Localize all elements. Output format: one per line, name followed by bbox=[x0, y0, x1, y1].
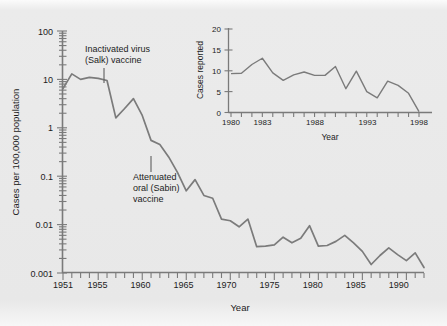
chart-canvas: 100 10 1 0.1 0.01 0.001 1951 1955 1960 1… bbox=[0, 0, 447, 326]
main-x-tick-label-2: 1960 bbox=[130, 280, 150, 290]
main-y-tick-label-0: 100 bbox=[38, 27, 53, 37]
main-series-line bbox=[63, 74, 424, 268]
inset-x-tick-label-4: 1998 bbox=[410, 118, 428, 127]
main-y-tick-label-3: 0.1 bbox=[40, 172, 53, 182]
main-x-tick-label-1: 1955 bbox=[87, 280, 107, 290]
inset-y-axis-title: Cases reported bbox=[195, 41, 205, 99]
main-y-tick-label-4: 0.01 bbox=[35, 220, 53, 230]
inset-y-tick-label-0: 20 bbox=[212, 25, 221, 34]
main-x-tick-label-7: 1985 bbox=[346, 280, 366, 290]
inset-x-ticks bbox=[231, 113, 419, 118]
main-x-axis-title: Year bbox=[230, 302, 249, 313]
annotation-sabin-line-2: vaccine bbox=[133, 194, 164, 204]
main-y-axis-title: Cases per 100,000 population bbox=[10, 89, 21, 216]
main-y-tick-label-2: 1 bbox=[48, 123, 53, 133]
annotation-salk-line-0: Inactivated virus bbox=[85, 44, 151, 54]
inset-y-ticks: 20 15 10 5 0 bbox=[212, 25, 232, 118]
annotation-sabin-line-0: Attenuated bbox=[133, 172, 177, 182]
inset-series-line bbox=[231, 58, 419, 111]
inset-y-tick-label-3: 5 bbox=[217, 88, 222, 97]
main-x-tick-label-6: 1980 bbox=[303, 280, 323, 290]
inset-x-tick-label-3: 1993 bbox=[359, 118, 377, 127]
inset-x-tick-labels: 1980 1983 1988 1993 1998 bbox=[222, 118, 428, 127]
inset-x-tick-label-0: 1980 bbox=[222, 118, 240, 127]
annotation-salk-line-1: (Salk) vaccine bbox=[85, 55, 142, 65]
main-x-tick-label-0: 1951 bbox=[53, 280, 73, 290]
main-x-ticks bbox=[63, 273, 424, 280]
main-x-tick-label-4: 1970 bbox=[217, 280, 237, 290]
main-x-tick-label-8: 1990 bbox=[389, 280, 409, 290]
polio-incidence-figure: 100 10 1 0.1 0.01 0.001 1951 1955 1960 1… bbox=[0, 0, 447, 326]
main-y-tick-label-1: 10 bbox=[43, 75, 53, 85]
main-x-tick-label-5: 1975 bbox=[260, 280, 280, 290]
inset-y-tick-label-1: 15 bbox=[212, 46, 221, 55]
inset-x-axis-title: Year bbox=[321, 132, 338, 142]
inset-x-tick-label-2: 1988 bbox=[306, 118, 324, 127]
inset-x-tick-label-1: 1983 bbox=[254, 118, 272, 127]
inset-chart: 20 15 10 5 0 1980 1983 1988 1993 1998 Ca… bbox=[195, 25, 432, 142]
main-y-tick-label-5: 0.001 bbox=[30, 269, 53, 279]
inset-y-tick-label-2: 10 bbox=[212, 67, 221, 76]
annotation-sabin-line-1: oral (Sabin) bbox=[133, 183, 180, 193]
main-x-tick-label-3: 1965 bbox=[173, 280, 193, 290]
main-x-tick-labels: 1951 1955 1960 1965 1970 1975 1980 1985 … bbox=[53, 280, 409, 290]
inset-y-tick-label-4: 0 bbox=[217, 109, 222, 118]
